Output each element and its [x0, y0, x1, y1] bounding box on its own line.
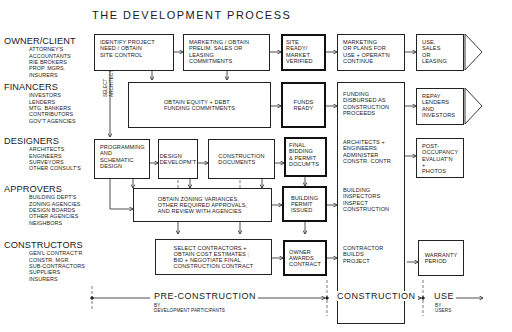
- box-text: IDENTIFY PROJECT NEED / OBTAIN SITE CONT…: [100, 39, 168, 58]
- box-final-bidding: FINAL BIDDING & PERMIT DOCUM'TS: [284, 137, 327, 177]
- box-owner-awards: OWNER AWARDS CONTRACT: [283, 240, 327, 276]
- box-text: MARKETING OR PLANS FOR USE + OPERAT'N CO…: [343, 39, 399, 64]
- box-funds-ready: FUNDS READY: [281, 82, 326, 128]
- box-marketing: MARKETING / OBTAIN PRELIM. SALES OR LEAS…: [183, 34, 270, 71]
- box-text: SELECT CONTRACTORS + OBTAIN COST ESTIMAT…: [174, 245, 254, 270]
- phase-pre-construction: PRE-CONSTRUCTION: [152, 291, 258, 301]
- box-warranty: WARRANTY PERIOD: [418, 240, 464, 276]
- chevron-arrow-icon: [465, 34, 482, 70]
- box-text: CONSTRUCTION DOCUMENTS: [218, 153, 264, 166]
- box-design-development: DESIGN DEVELOPM'T: [158, 139, 198, 179]
- chevron-arrow-icon: [465, 88, 482, 124]
- box-text: OWNER AWARDS CONTRACT: [289, 249, 321, 268]
- box-text: CONTRACTOR BUILDS PROJECT: [343, 245, 399, 264]
- box-permit-issued: BUILDING PERMIT ISSUED: [282, 186, 327, 222]
- box-construction-documents: CONSTRUCTION DOCUMENTS: [208, 139, 275, 179]
- box-text: FINAL BIDDING & PERMIT DOCUM'TS: [289, 142, 322, 167]
- box-text: FUNDING DISBURSED AS CONSTRUCTION PROCEE…: [343, 91, 399, 139]
- box-text: BUILDING INSPECTORS INSPECT CONSTRUCTION: [343, 187, 399, 245]
- phase-construction: CONSTRUCTION: [335, 291, 418, 301]
- box-construction-column: FUNDING DISBURSED AS CONSTRUCTION PROCEE…: [337, 82, 405, 324]
- box-text: MARKETING / OBTAIN PRELIM. SALES OR LEAS…: [189, 39, 264, 64]
- box-text: WARRANTY PERIOD: [425, 252, 458, 265]
- box-marketing-plans: MARKETING OR PLANS FOR USE + OPERAT'N CO…: [337, 34, 405, 71]
- box-obtain-equity: OBTAIN EQUITY + DEBT FUNDING COMMITMENTS: [128, 82, 271, 128]
- phase-pre-construction-sub: BY DEVELOPMENT PARTICIPANTS: [154, 303, 225, 313]
- box-post-occupancy: POST- OCCUPANCY EVALUAT'N + PHOTOS: [416, 138, 464, 178]
- box-programming: PROGRAMMING AND SCHEMATIC DESIGN: [94, 139, 150, 179]
- box-text: ARCHITECTS + ENGINEERS ADMINISTER CONSTR…: [343, 139, 399, 187]
- box-text: PROGRAMMING AND SCHEMATIC DESIGN: [100, 144, 144, 169]
- box-text: BUILDING PERMIT ISSUED: [291, 195, 318, 214]
- box-site-ready: SITE READY/ MARKET VERIFIED: [281, 34, 326, 71]
- box-text: SITE READY/ MARKET VERIFIED: [286, 39, 321, 64]
- phase-use: USE: [432, 291, 456, 301]
- box-text: REPAY LENDERS AND INVESTORS: [422, 93, 458, 118]
- box-select-contractors: SELECT CONTRACTORS + OBTAIN COST ESTIMAT…: [155, 239, 272, 275]
- box-text: OBTAIN ZONING VARIANCES, OTHER REQUIRED …: [158, 196, 247, 215]
- box-text: USE, SALES OR LEASING: [422, 39, 458, 64]
- box-repay-lenders: REPAY LENDERS AND INVESTORS: [416, 88, 464, 125]
- select-architect-label: SELECT ARCHITECT: [103, 70, 114, 97]
- phase-use-sub: BY USERS: [435, 303, 451, 313]
- box-obtain-zoning: OBTAIN ZONING VARIANCES, OTHER REQUIRED …: [133, 188, 272, 222]
- box-text: OBTAIN EQUITY + DEBT FUNDING COMMITMENTS: [164, 99, 235, 112]
- box-text: DESIGN DEVELOPM'T: [160, 153, 197, 166]
- box-text: FUNDS READY: [294, 99, 314, 112]
- box-use-sales: USE, SALES OR LEASING: [416, 34, 464, 71]
- box-identify-project: IDENTIFY PROJECT NEED / OBTAIN SITE CONT…: [94, 34, 174, 71]
- box-text: POST- OCCUPANCY EVALUAT'N + PHOTOS: [422, 143, 458, 174]
